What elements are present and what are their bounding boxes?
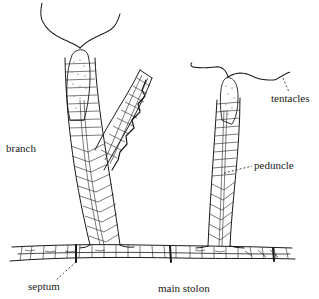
left-polyp-drawing [41,3,152,248]
leader-tentacles [283,78,289,92]
label-branch: branch [6,143,36,154]
right-polyp-drawing [191,63,290,248]
label-main-stolon: main stolon [158,283,210,294]
right-tentacle-2 [228,72,290,80]
left-tentacle-1 [41,3,80,48]
leader-septum [56,262,76,280]
septum-mark-3 [273,248,274,261]
leader-peduncle [224,166,252,173]
hydroid-diagram [0,0,319,299]
label-tentacles: tentacles [271,93,309,104]
label-peduncle: peduncle [254,160,294,171]
main-stolon-drawing [10,245,295,262]
right-tentacle-1 [191,63,228,77]
left-tentacle-2 [80,14,120,48]
septum-mark-2 [170,246,171,262]
label-septum: septum [28,281,60,292]
